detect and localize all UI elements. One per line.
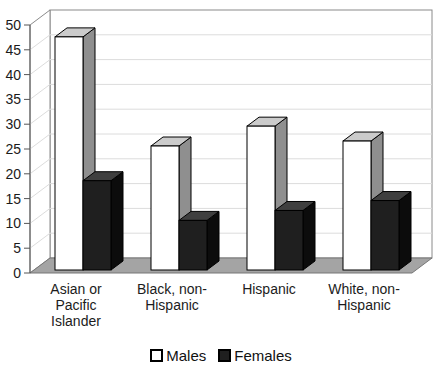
y-axis-label: 40 xyxy=(5,67,21,83)
bar-front-face xyxy=(179,220,207,270)
y-axis-label: 35 xyxy=(5,91,21,107)
bar-front-face xyxy=(247,126,275,270)
category-label: Black, non-Hispanic xyxy=(137,281,207,313)
bar-front-face xyxy=(55,37,83,270)
bar-front-face xyxy=(275,210,303,270)
bar-front-face xyxy=(343,141,371,270)
y-axis-label: 20 xyxy=(5,166,21,182)
bar-females-1 xyxy=(179,211,219,270)
chart-canvas: 05101520253035404550 Asian orPacificIsla… xyxy=(0,0,442,367)
y-axis-label: 10 xyxy=(5,215,21,231)
bar-side-face xyxy=(207,211,219,270)
bar-front-face xyxy=(151,146,179,270)
y-axis-label: 45 xyxy=(5,42,21,58)
bar-side-face xyxy=(399,192,411,270)
legend-swatch-males xyxy=(150,349,163,362)
category-label: Asian orPacificIslander xyxy=(50,281,101,329)
bar-females-3 xyxy=(371,192,411,270)
legend: Males Females xyxy=(0,347,442,364)
y-axis-label: 0 xyxy=(13,265,21,281)
legend-swatch-females xyxy=(218,349,231,362)
bar-females-0 xyxy=(83,172,123,270)
y-axis-label: 25 xyxy=(5,141,21,157)
bar-side-face xyxy=(303,201,315,270)
legend-label-males: Males xyxy=(166,347,206,364)
bar-females-2 xyxy=(275,201,315,270)
category-label: Hispanic xyxy=(242,281,296,297)
bar-front-face xyxy=(83,181,111,270)
legend-label-females: Females xyxy=(234,347,292,364)
y-axis-label: 15 xyxy=(5,191,21,207)
bar-side-face xyxy=(111,172,123,270)
y-axis: 05101520253035404550 xyxy=(5,17,30,281)
y-axis-label: 5 xyxy=(13,240,21,256)
category-label: White, non-Hispanic xyxy=(328,281,400,313)
y-axis-label: 30 xyxy=(5,116,21,132)
bar-front-face xyxy=(371,201,399,270)
y-axis-label: 50 xyxy=(5,17,21,33)
